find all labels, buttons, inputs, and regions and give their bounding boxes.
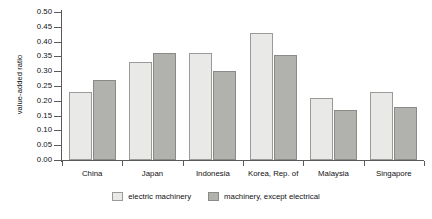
bar	[334, 110, 357, 160]
bar	[153, 53, 176, 160]
bar	[370, 92, 393, 160]
y-axis-tick	[54, 130, 61, 131]
legend-label: electric machinery	[128, 192, 191, 201]
x-axis-tick	[183, 161, 184, 166]
bar	[189, 53, 212, 160]
bar	[69, 92, 92, 160]
y-axis-tick-label: 0.30	[18, 67, 52, 75]
y-axis-tick	[54, 160, 61, 161]
y-axis-tick	[54, 42, 61, 43]
y-axis-tick-label: 0.20	[18, 97, 52, 105]
x-axis-category-label: Singapore	[364, 170, 424, 178]
y-axis-tick	[54, 27, 61, 28]
bar	[250, 33, 273, 160]
x-axis-category-label: Malaysia	[303, 170, 363, 178]
x-axis-tick	[303, 161, 304, 166]
bar	[310, 98, 333, 160]
y-axis-tick-label: 0.40	[18, 38, 52, 46]
y-axis-tick	[54, 145, 61, 146]
y-axis-tick-label: 0.00	[18, 156, 52, 164]
x-axis-category-label: Japan	[122, 170, 182, 178]
bar	[93, 80, 116, 160]
chart-legend: electric machinerymachinery, except elec…	[0, 192, 432, 201]
plot-area: 0.000.050.100.150.200.250.300.350.400.45…	[62, 12, 424, 160]
x-axis-tick	[424, 161, 425, 166]
legend-item: machinery, except electrical	[208, 192, 320, 201]
bar-chart: value-added ratio 0.000.050.100.150.200.…	[0, 0, 432, 219]
x-axis-tick	[364, 161, 365, 166]
y-axis-tick-label: 0.15	[18, 112, 52, 120]
legend-item: electric machinery	[112, 192, 191, 201]
y-axis-tick-label: 0.45	[18, 23, 52, 31]
bar	[213, 71, 236, 160]
y-axis-tick	[54, 86, 61, 87]
x-axis-category-label: Korea, Rep. of	[243, 170, 303, 178]
x-axis-tick	[62, 161, 63, 166]
y-axis-tick	[54, 116, 61, 117]
legend-swatch	[208, 192, 219, 201]
legend-swatch	[112, 192, 123, 201]
x-axis-category-label: Indonesia	[183, 170, 243, 178]
y-axis-tick-label: 0.35	[18, 52, 52, 60]
y-axis-tick-label: 0.05	[18, 141, 52, 149]
bar	[274, 55, 297, 160]
x-axis-tick	[243, 161, 244, 166]
y-axis-tick-label: 0.50	[18, 8, 52, 16]
y-axis-tick	[54, 71, 61, 72]
y-axis-tick	[54, 101, 61, 102]
y-axis-tick-label: 0.10	[18, 126, 52, 134]
bar	[129, 62, 152, 160]
x-axis-category-label: China	[62, 170, 122, 178]
y-axis-tick	[54, 12, 61, 13]
bar	[394, 107, 417, 160]
y-axis-tick-label: 0.25	[18, 82, 52, 90]
y-axis-tick	[54, 56, 61, 57]
y-axis-line	[61, 10, 62, 162]
legend-label: machinery, except electrical	[224, 192, 320, 201]
x-axis-tick	[122, 161, 123, 166]
